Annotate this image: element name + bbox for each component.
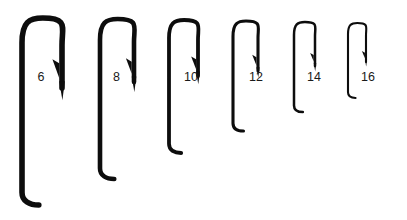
size-label-12: 12 [249,70,263,84]
hook-illustration-canvas: 6810121416 [0,0,407,220]
size-label-10: 10 [184,70,198,84]
hook-size-chart: 6810121416 [0,0,407,220]
size-label-8: 8 [113,70,120,84]
size-label-6: 6 [38,70,45,84]
size-label-16: 16 [361,70,375,84]
size-label-14: 14 [307,70,321,84]
